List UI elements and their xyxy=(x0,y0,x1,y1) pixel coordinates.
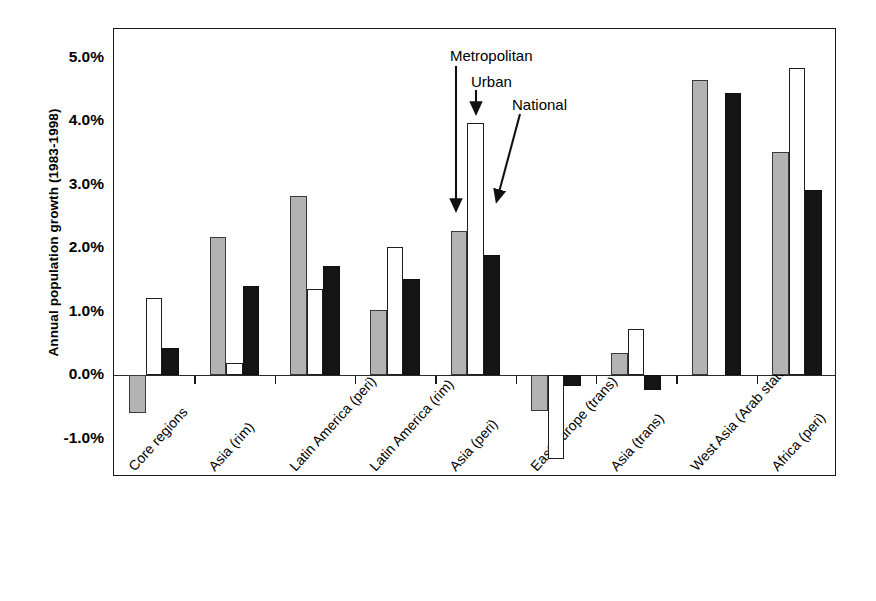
y-tick-label: -1.0% xyxy=(20,429,104,447)
x-tick-mark xyxy=(596,375,597,384)
x-tick-mark xyxy=(676,375,677,384)
y-tick-label: 2.0% xyxy=(20,238,104,256)
y-tick-label: 1.0% xyxy=(20,302,104,320)
bar-metropolitan-8 xyxy=(772,152,789,376)
bar-urban-5 xyxy=(548,375,565,459)
y-tick-label: 4.0% xyxy=(20,111,104,129)
bar-urban-2 xyxy=(307,289,324,375)
x-tick-mark xyxy=(194,375,195,384)
bar-metropolitan-0 xyxy=(129,375,146,413)
x-tick-mark xyxy=(757,375,758,384)
bar-national-8 xyxy=(805,190,822,375)
bar-urban-0 xyxy=(146,298,163,376)
bar-metropolitan-1 xyxy=(210,237,227,375)
bar-urban-4 xyxy=(467,123,484,375)
bar-national-2 xyxy=(323,266,340,375)
chart-figure: Annual population growth (1983-1998) 5.0… xyxy=(0,0,876,601)
bar-urban-3 xyxy=(387,247,404,375)
x-tick-mark xyxy=(435,375,436,384)
y-tick-label: 5.0% xyxy=(20,48,104,66)
bar-national-5 xyxy=(564,375,581,386)
x-tick-mark xyxy=(275,375,276,384)
bar-metropolitan-3 xyxy=(370,310,387,375)
annotation-national: National xyxy=(512,96,567,113)
bar-metropolitan-6 xyxy=(611,353,628,375)
bar-metropolitan-5 xyxy=(531,375,548,411)
x-tick-mark xyxy=(516,375,517,384)
bar-urban-8 xyxy=(789,68,806,375)
annotation-urban: Urban xyxy=(471,73,512,90)
bar-national-3 xyxy=(403,279,420,376)
bar-urban-6 xyxy=(628,329,645,375)
bar-metropolitan-7 xyxy=(692,80,709,375)
bar-national-7 xyxy=(725,93,742,376)
y-tick-label: 0.0% xyxy=(20,365,104,383)
bar-national-1 xyxy=(243,286,260,375)
bar-metropolitan-2 xyxy=(290,196,307,375)
bar-urban-1 xyxy=(226,363,243,376)
annotation-metropolitan: Metropolitan xyxy=(450,47,533,64)
bar-national-4 xyxy=(484,255,501,375)
plot-area xyxy=(113,28,836,476)
bar-national-6 xyxy=(644,375,661,390)
bar-national-0 xyxy=(162,348,179,375)
x-tick-mark xyxy=(355,375,356,384)
bar-metropolitan-4 xyxy=(451,231,468,375)
y-tick-label: 3.0% xyxy=(20,175,104,193)
bars-layer xyxy=(114,29,835,475)
